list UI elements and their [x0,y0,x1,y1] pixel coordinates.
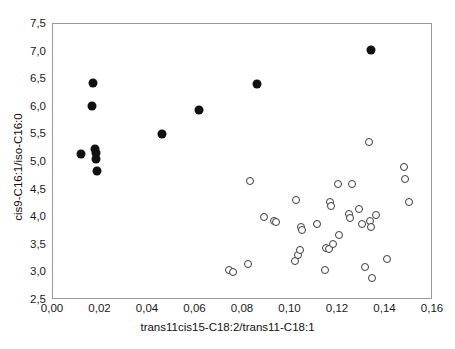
data-point-filled [92,167,101,176]
x-axis-title: trans11cis15-C18:2/trans11-C18:1 [0,321,455,333]
data-point-open [372,211,380,219]
data-point-open [365,138,373,146]
data-point-open [367,223,375,231]
data-point-open [346,214,354,222]
x-tick-label: 0,12 [315,302,359,314]
data-point-open [348,180,356,188]
scatter-plot-figure: 2,53,03,54,04,55,05,56,06,57,07,5 0,000,… [0,0,455,349]
data-point-open [313,220,321,228]
data-point-open [335,231,343,239]
x-tick-label: 0,02 [78,302,122,314]
data-point-open [296,246,304,254]
y-axis-title: cis9-C16:1/iso-C16:0 [12,77,24,257]
data-point-filled [366,46,375,55]
data-point-open [244,260,252,268]
data-point-open [361,263,369,271]
x-tick-label: 0,10 [268,302,312,314]
data-point-open [321,266,329,274]
data-point-open [272,218,280,226]
data-point-filled [88,78,97,87]
x-tick-label: 0,04 [125,302,169,314]
data-point-open [292,196,300,204]
x-tick-label: 0,00 [30,302,74,314]
data-point-open [229,268,237,276]
data-point-filled [92,155,101,164]
y-tick-label: 7,5 [6,17,46,29]
y-tick-label: 7,0 [6,45,46,57]
y-tick-label: 3,0 [6,265,46,277]
data-point-open [329,240,337,248]
data-point-open [368,274,376,282]
data-point-filled [88,102,97,111]
data-point-filled [157,129,166,138]
data-point-open [334,180,342,188]
data-point-filled [253,79,262,88]
data-point-open [355,205,363,213]
data-point-open [401,175,409,183]
data-point-open [383,255,391,263]
data-point-open [327,202,335,210]
x-tick-label: 0,08 [220,302,264,314]
data-point-open [405,198,413,206]
data-point-filled [195,105,204,114]
data-point-open [246,177,254,185]
data-point-open [400,163,408,171]
data-point-open [298,226,306,234]
x-tick-label: 0,06 [173,302,217,314]
x-tick-label: 0,14 [363,302,407,314]
data-points-layer [53,24,431,298]
plot-area [52,23,432,299]
data-point-filled [77,150,86,159]
x-tick-label: 0,16 [410,302,454,314]
data-point-open [358,220,366,228]
data-point-open [260,213,268,221]
